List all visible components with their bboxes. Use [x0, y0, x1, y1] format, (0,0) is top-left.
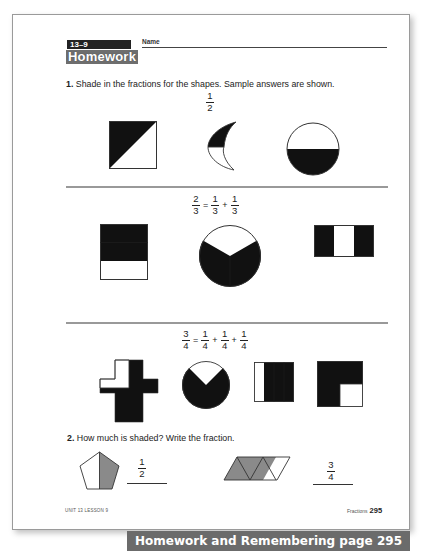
- question-1: 1. Shade in the fractions for the shapes…: [66, 79, 334, 89]
- circle-thirds-shape: [199, 225, 261, 287]
- crescent-half-shape: [207, 121, 239, 171]
- question-2: 2. How much is shaded? Write the fractio…: [67, 433, 235, 443]
- equation-three-quarters: 3 4 = 1 4 + 1 4 + 1 4: [182, 329, 248, 351]
- page-number: 295: [370, 506, 383, 515]
- parallelogram-triangles-shape: [224, 457, 292, 481]
- circle-quarters-shape: [182, 361, 230, 409]
- question-1-number: 1.: [66, 79, 73, 89]
- page-reference-banner: Homework and Remembering page 295: [127, 531, 410, 551]
- rectangle-quarters-right-shape: [254, 362, 294, 403]
- name-label: Name: [142, 38, 160, 45]
- section-divider-2: [66, 322, 388, 324]
- footer-topic: Fractions: [347, 508, 368, 514]
- question-1-text: Shade in the fractions for the shapes. S…: [76, 79, 335, 89]
- footer-unit-lesson: UNIT 13 LESSON 9: [65, 508, 108, 513]
- answer-2-fraction: 3 4: [327, 460, 335, 482]
- lesson-number-tag: 13–9: [67, 40, 131, 49]
- answer-1-line: [127, 483, 167, 484]
- square-diagonal-half-shape: [109, 121, 158, 170]
- answer-1-fraction: 1 2: [138, 457, 146, 479]
- square-quarters-shape: [317, 361, 364, 408]
- rectangle-thirds-outer-shape: [314, 225, 375, 258]
- cross-quarters-shape: [100, 360, 159, 423]
- question-2-number: 2.: [67, 433, 74, 443]
- circle-bottom-half-shape: [286, 122, 340, 176]
- rectangle-thirds-shape: [100, 224, 149, 280]
- pentagon-half-shaded-shape: [80, 452, 120, 490]
- fraction-one-half: 1 2: [206, 91, 214, 113]
- page-title: Homework: [66, 50, 138, 64]
- footer-page: Fractions295: [347, 506, 382, 515]
- answer-2-line: [313, 484, 353, 485]
- name-line: [142, 47, 387, 48]
- question-2-text: How much is shaded? Write the fraction.: [77, 433, 235, 443]
- section-divider-1: [66, 186, 388, 188]
- equation-two-thirds: 2 3 = 1 3 + 1 3: [192, 194, 239, 216]
